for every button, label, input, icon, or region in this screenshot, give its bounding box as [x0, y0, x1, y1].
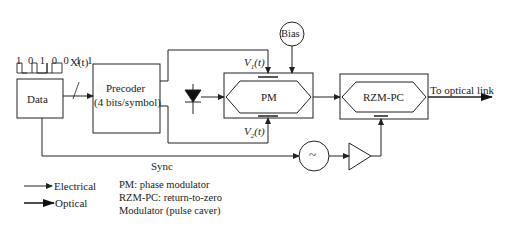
precoder-sublabel: (4 bits/symbol) [94, 96, 161, 108]
sync-label: Sync [151, 160, 173, 172]
note-pm: PM: phase modulator [119, 179, 209, 191]
precoder-label: Precoder [106, 82, 145, 94]
bias-label: Bias [281, 28, 300, 40]
signal-x-t: X(t) [70, 56, 88, 68]
laser-diode-icon [185, 84, 201, 114]
diagram-canvas [0, 0, 508, 226]
rzm-pc-label: RZM-PC [363, 91, 404, 103]
signal-v2: V2(t) [244, 125, 265, 142]
amplifier-icon [349, 143, 371, 170]
note-rzm-pc: RZM-PC: return-to-zero [119, 192, 222, 204]
signal-v1: V1(t) [244, 56, 265, 73]
legend-optical: Optical [55, 197, 87, 209]
legend-electrical: Electrical [54, 180, 96, 192]
oscillator-label: ~ [309, 149, 316, 161]
note-modulator: Modulator (pulse caver) [119, 205, 220, 217]
pm-label: PM [261, 91, 277, 103]
data-label: Data [27, 93, 48, 105]
output-label: To optical link [430, 84, 494, 96]
